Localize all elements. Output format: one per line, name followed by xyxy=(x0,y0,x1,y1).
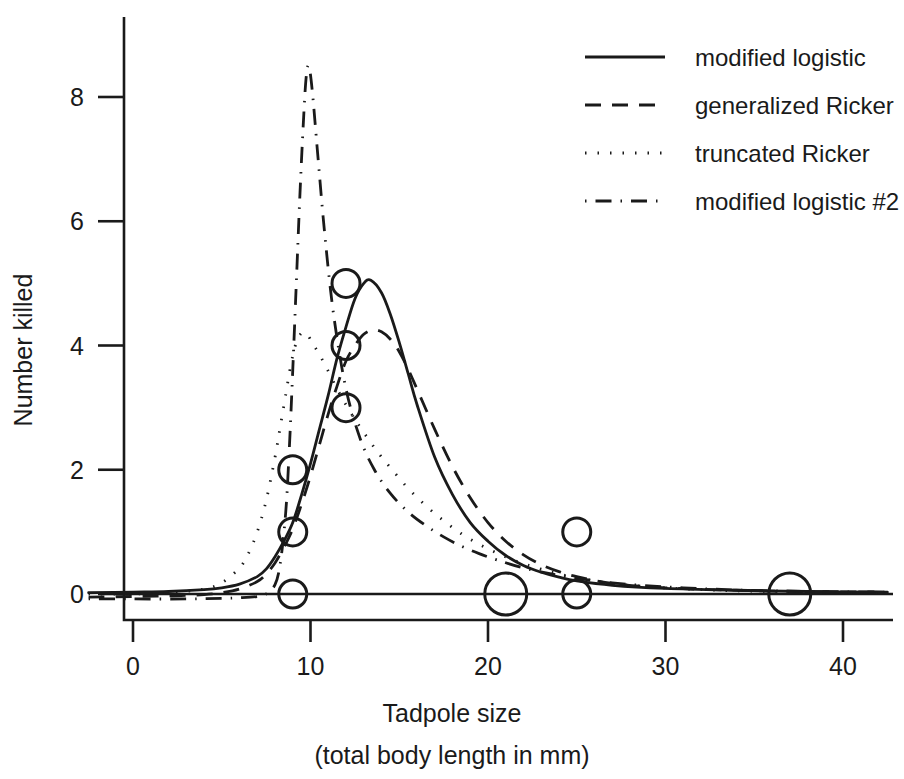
x-axis-title-line1: Tadpole size xyxy=(383,699,522,727)
y-tick-label: 2 xyxy=(70,456,84,484)
y-tick-label: 0 xyxy=(70,580,84,608)
x-tick-label: 40 xyxy=(829,652,857,680)
legend-label: generalized Ricker xyxy=(695,92,894,119)
y-tick-label: 4 xyxy=(70,332,84,360)
legend-label: modified logistic xyxy=(695,44,866,71)
x-tick-label: 0 xyxy=(126,652,140,680)
x-axis-title-line2: (total body length in mm) xyxy=(314,741,589,769)
x-tick-label: 10 xyxy=(297,652,325,680)
legend-label: modified logistic #2 xyxy=(695,188,899,215)
legend-label: truncated Ricker xyxy=(695,140,870,167)
y-tick-label: 8 xyxy=(70,83,84,111)
x-tick-label: 30 xyxy=(652,652,680,680)
y-axis-title: Number killed xyxy=(9,274,37,427)
chart-canvas: 01020304002468 modified logisticgenerali… xyxy=(0,0,904,779)
x-tick-label: 20 xyxy=(474,652,502,680)
y-tick-label: 6 xyxy=(70,207,84,235)
figure-container: 01020304002468 modified logisticgenerali… xyxy=(0,0,904,779)
